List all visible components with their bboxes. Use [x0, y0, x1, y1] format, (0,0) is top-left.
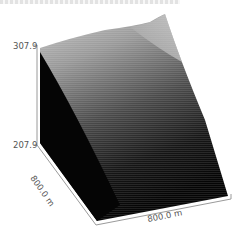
surface-mesh	[40, 14, 228, 221]
surface-plot: 307.9 207.9 800.0 m 800.0 m	[0, 0, 237, 236]
y-axis-label: 800.0 m	[28, 173, 56, 208]
z-axis-bottom-label: 207.9	[13, 140, 37, 150]
z-axis-top-label: 307.9	[13, 41, 37, 51]
